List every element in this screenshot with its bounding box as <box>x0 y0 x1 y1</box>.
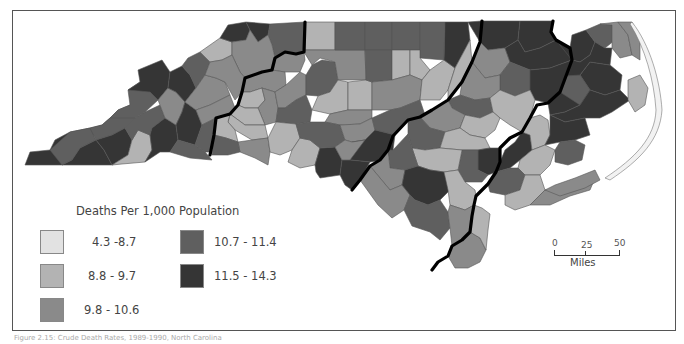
scale-unit: Miles <box>570 257 596 268</box>
scale-tick-50: 50 <box>614 238 625 248</box>
legend-item-class-2: 8.8 - 9.7 <box>40 264 136 288</box>
figure-caption: Figure 2.15: Crude Death Rates, 1989-199… <box>14 334 222 342</box>
county-region <box>365 50 392 82</box>
legend-swatch <box>40 298 64 322</box>
legend-item-class-4: 10.7 - 11.4 <box>180 230 277 254</box>
legend-label: 4.3 -8.7 <box>92 235 136 249</box>
county-region <box>392 22 420 50</box>
scale-bar: 0 25 50 Miles <box>552 236 622 276</box>
legend-item-class-5: 11.5 - 14.3 <box>180 264 277 288</box>
scale-tick-25: 25 <box>581 240 592 250</box>
legend-label: 9.8 - 10.6 <box>84 303 139 317</box>
legend-label: 8.8 - 9.7 <box>88 269 136 283</box>
county-region <box>335 22 365 50</box>
county-region <box>365 22 392 50</box>
legend-label: 10.7 - 11.4 <box>214 235 277 249</box>
legend-title: Deaths Per 1,000 Population <box>76 204 239 218</box>
county-region <box>305 22 335 50</box>
county-region <box>545 170 600 196</box>
legend-item-class-1: 4.3 -8.7 <box>40 230 136 254</box>
legend-label: 11.5 - 14.3 <box>214 269 277 283</box>
legend-swatch <box>180 230 204 254</box>
legend-swatch <box>40 264 64 288</box>
scale-tick-0: 0 <box>552 238 558 248</box>
scale-bar-line <box>554 250 620 256</box>
scale-bar-midtick <box>585 251 586 255</box>
county-region <box>238 138 270 165</box>
legend-item-class-3: 9.8 - 10.6 <box>40 298 139 322</box>
county-region <box>220 22 250 42</box>
county-region <box>555 140 585 165</box>
county-region <box>628 75 648 112</box>
county-region <box>420 22 445 60</box>
choropleth-map <box>0 0 684 344</box>
legend-swatch <box>40 230 64 254</box>
county-region <box>348 80 372 110</box>
legend-swatch <box>180 264 204 288</box>
